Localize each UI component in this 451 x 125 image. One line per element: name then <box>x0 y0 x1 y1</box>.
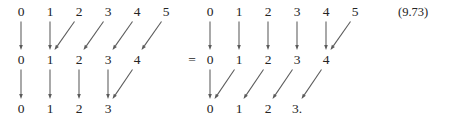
node-label: 2 <box>265 53 272 67</box>
node-label: 3 <box>105 5 112 19</box>
node-label: 1 <box>236 102 243 116</box>
vertical-arrow-head <box>295 45 299 50</box>
diagonal-arrow <box>86 22 103 46</box>
equals-sign: = <box>188 53 196 67</box>
diagonal-arrow-head <box>302 94 306 99</box>
node-label: 2 <box>76 102 83 116</box>
vertical-arrow-head <box>266 45 270 50</box>
vertical-arrow-head <box>19 45 23 50</box>
vertical-arrow-head <box>77 94 81 99</box>
vertical-arrow-head <box>237 45 241 50</box>
diagonal-arrow <box>333 22 350 46</box>
vertical-arrow-head <box>48 94 52 99</box>
node-label: 3 <box>294 53 301 67</box>
vertical-arrow-head <box>19 94 23 99</box>
vertical-arrow-head <box>208 45 212 50</box>
node-label: 5 <box>163 5 170 19</box>
node-label: 4 <box>134 53 141 67</box>
node-label: 3. <box>292 102 302 116</box>
node-label: 5 <box>352 5 359 19</box>
diagonal-arrow <box>115 70 132 95</box>
diagonal-arrow-head <box>113 94 117 99</box>
node-label: 1 <box>236 5 243 19</box>
diagonal-arrow <box>304 70 321 95</box>
commutative-diagram-figure: 012345012340123012345012340123. = (9.73) <box>0 0 451 125</box>
equation-number: (9.73) <box>398 6 428 19</box>
diagonal-arrow <box>57 22 74 46</box>
diagonal-arrow <box>246 70 263 95</box>
node-label: 2 <box>76 5 83 19</box>
vertical-arrow-head <box>324 45 328 50</box>
node-label: 1 <box>47 102 54 116</box>
node-label: 0 <box>18 53 25 67</box>
node-label: 2 <box>265 102 272 116</box>
node-label: 1 <box>47 5 54 19</box>
diagonal-arrow <box>115 22 132 46</box>
diagonal-arrow-head <box>113 45 117 50</box>
node-label: 3 <box>105 102 112 116</box>
node-label: 2 <box>76 53 83 67</box>
vertical-arrow-head <box>48 45 52 50</box>
diagonal-arrow-head <box>331 45 335 50</box>
diagonal-arrow <box>275 70 292 95</box>
diagonal-arrow-head <box>142 45 146 50</box>
diagonal-arrow <box>217 70 234 95</box>
node-label: 1 <box>236 53 243 67</box>
node-label: 4 <box>134 5 141 19</box>
node-label: 0 <box>207 53 214 67</box>
node-label: 0 <box>18 102 25 116</box>
node-label: 2 <box>265 5 272 19</box>
arrow-layer <box>0 0 451 125</box>
node-label: 4 <box>323 53 330 67</box>
node-label: 1 <box>47 53 54 67</box>
diagonal-arrow-head <box>273 94 277 99</box>
vertical-arrow-head <box>208 94 212 99</box>
node-label: 0 <box>207 102 214 116</box>
vertical-arrow-head <box>106 94 110 99</box>
diagonal-arrow-head <box>244 94 248 99</box>
node-label: 3 <box>294 5 301 19</box>
node-label: 4 <box>323 5 330 19</box>
node-label: 0 <box>207 5 214 19</box>
diagonal-arrow-head <box>55 45 59 50</box>
node-label: 3 <box>105 53 112 67</box>
diagonal-arrow-head <box>215 94 219 99</box>
diagonal-arrow <box>144 22 161 46</box>
node-label: 0 <box>18 5 25 19</box>
diagonal-arrow-head <box>84 45 88 50</box>
